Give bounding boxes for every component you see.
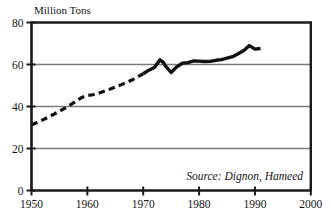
x-tick-label-2000: 2000 <box>299 198 322 210</box>
chart-figure: 020406080 195019601970198019902000 Milli… <box>0 0 331 222</box>
x-tick-label-1970: 1970 <box>132 198 155 210</box>
x-tick-label-1990: 1990 <box>243 198 266 210</box>
y-axis-title: Million Tons <box>34 4 91 16</box>
y-tick-label-80: 80 <box>12 17 24 29</box>
y-tick-label-60: 60 <box>12 59 24 71</box>
y-tick-label-40: 40 <box>12 101 24 113</box>
y-tick-label-20: 20 <box>12 143 24 155</box>
x-tick-label-1950: 1950 <box>20 198 43 210</box>
chart-background <box>0 0 331 222</box>
x-tick-label-1980: 1980 <box>188 198 211 210</box>
source-annotation: Source: Dignon, Hameed <box>186 170 303 183</box>
x-tick-label-1960: 1960 <box>76 198 99 210</box>
chart-canvas: 020406080 195019601970198019902000 Milli… <box>0 0 331 222</box>
y-tick-label-0: 0 <box>18 185 24 197</box>
